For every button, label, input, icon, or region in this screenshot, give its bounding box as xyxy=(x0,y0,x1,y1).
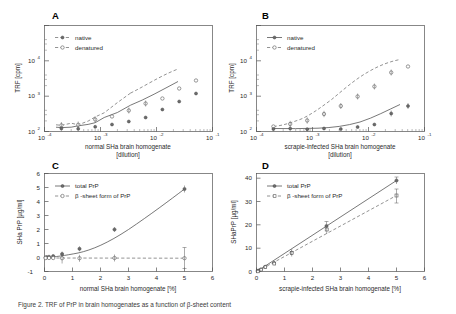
tick-label: 30 xyxy=(245,198,252,205)
tick-label: 2 xyxy=(37,226,41,233)
panel-a-y-tick-labels: 10 2 10 3 10 4 xyxy=(28,55,41,135)
tick-label: 0 xyxy=(255,274,259,281)
tick-label: 40 xyxy=(245,174,252,181)
tick-label: 2 xyxy=(311,274,315,281)
panel-c-x-tick-labels: 0 1 2 3 4 5 6 xyxy=(43,274,215,281)
tick-label: 0 xyxy=(249,268,253,275)
panel-b-legend-label-native: native xyxy=(287,34,304,41)
panel-c: C -1 0 1 2 3 4 5 6 xyxy=(0,155,228,314)
panel-a: A 10 2 10 xyxy=(0,0,228,160)
panel-b-frame xyxy=(257,26,425,132)
panel-c-plot: C -1 0 1 2 3 4 5 6 xyxy=(0,155,228,314)
tick-exponent: -3 xyxy=(316,132,320,137)
panel-a-x-axis-title-line1: normal SHa brain homogenate xyxy=(85,143,171,151)
panel-c-x-axis-title: normal SHa brain homogenate [%] xyxy=(80,285,177,293)
panel-a-y-ticks xyxy=(45,26,50,132)
figure-caption: Figure 2. TRF of PrP in brain homogenate… xyxy=(18,301,448,309)
tick-label: 10 xyxy=(250,134,257,141)
tick-label: 10 xyxy=(28,92,35,99)
tick-label: 1 xyxy=(37,240,41,247)
tick-label: 10 xyxy=(206,134,213,141)
panel-b-legend: native denatured xyxy=(267,34,315,51)
tick-label: 1 xyxy=(283,274,287,281)
panel-d-y-axis-title: SHaPrP [µg/ml] xyxy=(230,200,238,244)
panel-b-native-curve xyxy=(273,105,400,129)
tick-label: 5 xyxy=(395,274,399,281)
panel-c-total-prp-curve xyxy=(46,189,185,258)
tick-label: 6 xyxy=(37,170,41,177)
tick-label: 4 xyxy=(367,274,371,281)
panel-d-legend: total PrP β -sheet form of PrP xyxy=(267,182,342,199)
panel-c-y-tick-labels: -1 0 1 2 3 4 5 6 xyxy=(27,170,40,275)
tick-exponent: -4 xyxy=(48,132,52,137)
tick-label: 10 xyxy=(28,57,35,64)
panel-b-y-ticks xyxy=(257,26,262,132)
panel-d-legend-label-beta: β -sheet form of PrP xyxy=(287,192,342,199)
panel-b: B 10 2 10 3 1 xyxy=(228,0,456,160)
tick-label: 6 xyxy=(423,274,427,281)
tick-label: 10 xyxy=(28,128,35,135)
tick-label: 4 xyxy=(37,198,41,205)
panel-b-legend-label-denatured: denatured xyxy=(287,44,315,51)
panel-a-native-curve-ext xyxy=(131,82,179,106)
panel-c-legend-label-total: total PrP xyxy=(75,182,99,189)
panel-a-letter: A xyxy=(52,10,59,21)
panel-d-frame xyxy=(257,174,425,272)
panel-a-y-axis-title: TRF [cpm] xyxy=(14,63,22,93)
tick-label: -1 xyxy=(27,268,33,275)
panel-d-beta-sheet-curve xyxy=(258,196,397,272)
tick-label: 10 xyxy=(240,92,247,99)
tick-label: 10 xyxy=(94,134,101,141)
tick-label: 10 xyxy=(306,134,313,141)
panel-a-x-ticks xyxy=(45,127,213,132)
tick-label: 10 xyxy=(245,244,252,251)
panel-b-denatured-curve xyxy=(273,60,400,127)
panel-a-plot: A 10 2 10 xyxy=(0,0,228,160)
panel-b-y-tick-labels: 10 2 10 3 10 4 xyxy=(240,55,253,135)
panel-d-legend-label-total: total PrP xyxy=(287,182,311,189)
tick-label: 10 xyxy=(38,134,45,141)
tick-exponent: 3 xyxy=(38,91,41,96)
tick-exponent: -2 xyxy=(372,132,376,137)
panel-d-x-axis-title: scrapie-infected SHa brain homogenate [%… xyxy=(279,285,401,293)
tick-exponent: 3 xyxy=(250,91,253,96)
tick-label: 0 xyxy=(37,254,41,261)
tick-label: 10 xyxy=(240,128,247,135)
panel-a-legend: native denatured xyxy=(55,34,103,51)
panel-a-denatured-curve xyxy=(56,93,131,125)
tick-exponent: -3 xyxy=(104,132,108,137)
panel-d-x-ticks xyxy=(257,268,425,272)
panel-d-x-tick-labels: 0 1 2 3 4 5 6 xyxy=(255,274,427,281)
panel-a-legend-label-native: native xyxy=(75,34,92,41)
panel-a-denatured-curve-ext xyxy=(131,69,179,93)
tick-label: 10 xyxy=(240,57,247,64)
tick-exponent: 2 xyxy=(250,126,253,131)
tick-exponent: -2 xyxy=(160,132,164,137)
panel-a-frame xyxy=(45,26,213,132)
tick-exponent: -1 xyxy=(216,132,220,137)
tick-label: 5 xyxy=(37,184,41,191)
tick-label: 5 xyxy=(183,274,187,281)
tick-label: 10 xyxy=(362,134,369,141)
panel-d-plot: D 0 10 20 30 40 xyxy=(228,155,456,314)
panel-d: D 0 10 20 30 40 xyxy=(228,155,456,314)
panel-d-letter: D xyxy=(262,160,269,171)
tick-label: 0 xyxy=(43,274,47,281)
tick-label: 20 xyxy=(245,221,252,228)
panel-b-y-axis-title: TRF [cpm] xyxy=(228,63,236,93)
panel-b-denatured-points xyxy=(272,65,410,128)
tick-label: 1 xyxy=(71,274,75,281)
panel-c-legend-label-beta: β -sheet form of PrP xyxy=(75,192,130,199)
tick-label: 2 xyxy=(99,274,103,281)
tick-label: 6 xyxy=(211,274,215,281)
tick-exponent: -4 xyxy=(260,132,264,137)
figure-container: A 10 2 10 xyxy=(0,0,456,314)
tick-label: 3 xyxy=(127,274,131,281)
tick-exponent: 2 xyxy=(38,126,41,131)
tick-label: 4 xyxy=(155,274,159,281)
tick-exponent: -1 xyxy=(428,132,432,137)
tick-label: 3 xyxy=(37,212,41,219)
tick-label: 10 xyxy=(418,134,425,141)
panel-b-letter: B xyxy=(262,10,269,21)
panel-c-frame xyxy=(45,174,213,272)
